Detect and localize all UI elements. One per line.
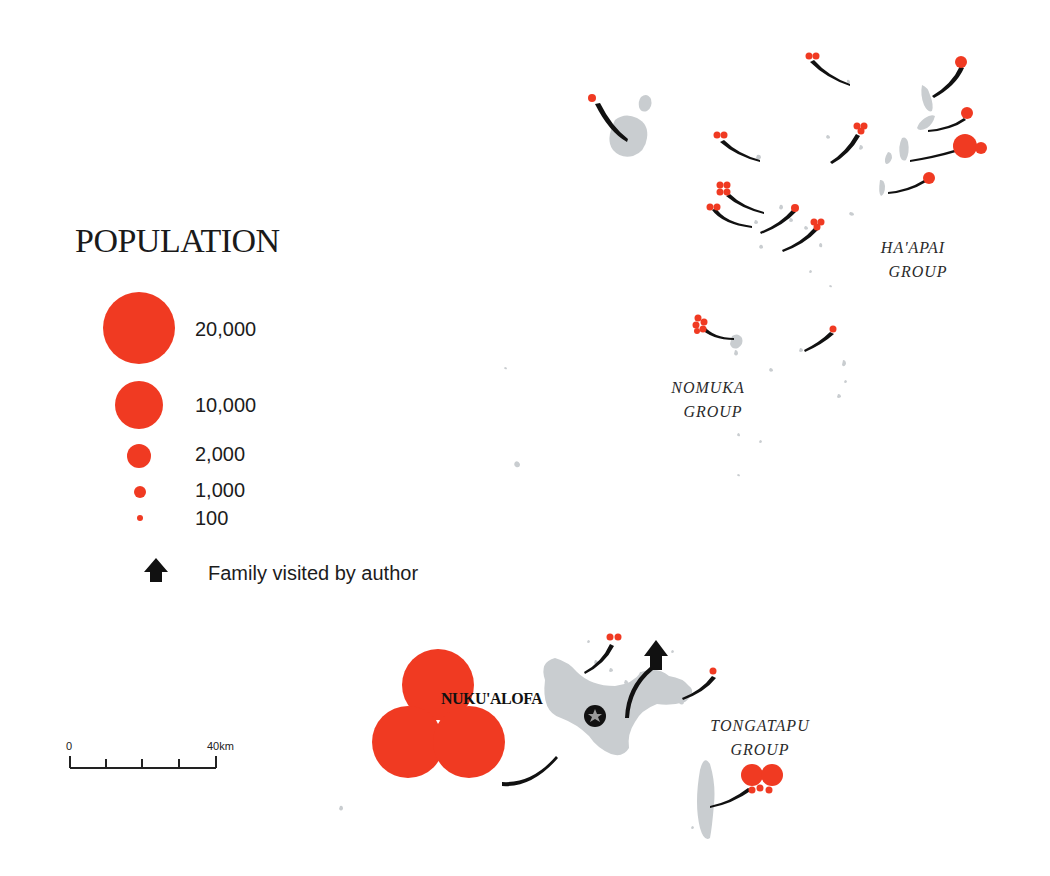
pop-dot	[923, 172, 935, 184]
flow-line	[502, 756, 558, 786]
pop-dot	[700, 326, 707, 333]
legend-label-100: 100	[195, 507, 228, 530]
flow-line	[712, 208, 752, 228]
island	[504, 367, 507, 369]
nomuka-line1: NOMUKA	[658, 376, 758, 400]
flow-line	[932, 66, 964, 98]
flow-line	[888, 180, 926, 194]
island	[734, 350, 738, 356]
pop-dot	[814, 224, 821, 231]
island	[804, 226, 808, 230]
scale-end-label: 40km	[207, 740, 234, 752]
island	[609, 668, 613, 672]
capital-label-nukualofa: NUKU'ALOFA	[441, 690, 542, 708]
tongatapu-line1: TONGATAPU	[690, 714, 830, 738]
island	[639, 95, 652, 112]
pop-dot	[721, 132, 728, 139]
legend-dot-100	[137, 515, 143, 521]
island	[737, 433, 740, 436]
pop-dot	[714, 204, 721, 211]
island	[754, 220, 758, 224]
scale-bar	[70, 756, 216, 768]
flow-line	[810, 60, 850, 86]
pop-dot	[717, 182, 724, 189]
pop-dot	[607, 634, 614, 641]
island	[759, 440, 762, 443]
pop-dot	[701, 319, 708, 326]
island	[917, 115, 935, 130]
island	[671, 650, 674, 653]
island	[609, 115, 647, 156]
legend-dot-2000	[127, 444, 151, 468]
flow-line	[726, 194, 764, 214]
legend-arrow-icon	[144, 558, 168, 582]
island	[809, 270, 812, 273]
island	[879, 180, 885, 196]
flow-line	[720, 140, 760, 162]
tongatapu-line2: GROUP	[690, 738, 830, 762]
pop-dot	[724, 189, 731, 196]
map-canvas	[0, 0, 1050, 876]
pop-dot	[714, 132, 721, 139]
flow-line	[804, 332, 834, 352]
island	[339, 806, 343, 811]
pop-dot	[975, 142, 987, 154]
island	[829, 285, 832, 287]
pop-dot	[806, 53, 813, 60]
pop-dot	[830, 326, 837, 333]
nomuka-group-label: NOMUKA GROUP	[658, 376, 758, 424]
flow-line	[910, 150, 956, 162]
legend-symbols	[103, 292, 175, 521]
legend-dot-1000	[134, 486, 146, 498]
pop-dot	[791, 204, 799, 212]
legend-dot-10000	[115, 381, 163, 429]
pop-dot-large	[433, 706, 505, 778]
island	[737, 474, 740, 476]
family-visited-arrow-icon	[644, 640, 668, 670]
pop-dot	[953, 134, 977, 158]
island	[826, 135, 830, 139]
island	[759, 245, 763, 249]
pop-dot	[724, 182, 731, 189]
flow-line	[782, 228, 818, 252]
pop-dot	[710, 668, 717, 675]
pop-dot	[749, 787, 756, 794]
island	[899, 138, 908, 161]
pop-dot	[766, 787, 773, 794]
pop-dot	[694, 328, 700, 334]
island	[769, 368, 773, 372]
pop-dot	[615, 634, 622, 641]
flow-line	[928, 118, 966, 132]
legend-label-2000: 2,000	[195, 443, 245, 466]
island-eua	[697, 760, 715, 839]
island	[885, 152, 892, 164]
island	[837, 394, 841, 398]
nomuka-line2: GROUP	[658, 400, 758, 424]
pop-dot	[707, 204, 714, 211]
island	[756, 155, 761, 160]
island	[842, 360, 846, 366]
pop-dot	[693, 322, 700, 329]
pop-dot	[955, 56, 967, 68]
legend-label-10000: 10,000	[195, 394, 256, 417]
haapai-line1: HA'APAI	[868, 236, 958, 260]
island	[849, 212, 854, 216]
pop-dot	[961, 107, 973, 119]
haapai-group-label: HA'APAI GROUP	[868, 236, 958, 284]
island-tongatapu	[543, 658, 692, 755]
flow-line	[710, 788, 752, 808]
island	[691, 826, 694, 829]
island	[730, 334, 743, 348]
legend-dot-20000	[103, 292, 175, 364]
pop-dot	[588, 94, 596, 102]
pop-dot	[741, 764, 763, 786]
pop-dot	[717, 189, 724, 196]
capital-star-icon	[584, 705, 606, 727]
haapai-line2: GROUP	[868, 260, 958, 284]
legend-title: POPULATION	[75, 222, 280, 260]
legend-label-1000: 1,000	[195, 479, 245, 502]
island	[514, 461, 520, 467]
island	[587, 640, 590, 643]
scale-start-label: 0	[66, 740, 72, 752]
tongatapu-group-label: TONGATAPU GROUP	[690, 714, 830, 762]
